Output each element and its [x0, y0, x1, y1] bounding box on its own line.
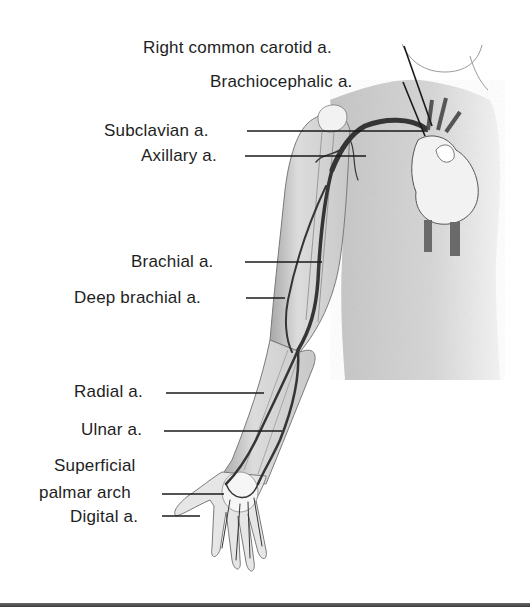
label-deep-brachial: Deep brachial a. — [74, 288, 201, 308]
label-ulnar: Ulnar a. — [81, 420, 142, 440]
label-brachial: Brachial a. — [131, 252, 214, 272]
bottom-border — [0, 603, 530, 607]
label-radial: Radial a. — [74, 382, 143, 402]
hand-shape — [175, 472, 267, 571]
label-right-common-carotid: Right common carotid a. — [143, 38, 332, 58]
label-superficial-palmar-arch-line1: Superficial — [54, 456, 136, 476]
label-superficial-palmar-arch-line2: palmar arch — [39, 483, 131, 503]
label-digital: Digital a. — [70, 507, 138, 527]
label-brachiocephalic: Brachiocephalic a. — [210, 72, 353, 92]
label-axillary: Axillary a. — [141, 146, 217, 166]
label-subclavian: Subclavian a. — [104, 121, 209, 141]
